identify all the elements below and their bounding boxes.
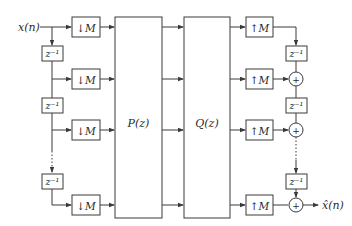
output-label: x̂(n) xyxy=(322,199,344,212)
delay-label: z⁻¹ xyxy=(45,48,60,59)
expander-label: ↑M xyxy=(250,125,270,137)
decimator-label: ↓M xyxy=(76,22,96,34)
delay-label: z⁻¹ xyxy=(289,100,304,111)
q-matrix-label: Q(z) xyxy=(195,117,218,130)
p-matrix-label: P(z) xyxy=(127,117,150,130)
expander-label: ↑M xyxy=(250,22,270,34)
delay-label: z⁻¹ xyxy=(45,100,60,111)
delay-label: z⁻¹ xyxy=(289,48,304,59)
decimator-label: ↓M xyxy=(76,125,96,137)
adder-plus-icon: + xyxy=(292,201,300,211)
delay-label: z⁻¹ xyxy=(289,176,304,187)
expander-label: ↑M xyxy=(250,200,270,212)
decimator-label: ↓M xyxy=(76,74,96,86)
adder-plus-icon: + xyxy=(292,126,300,136)
polyphase-filterbank-diagram: x(n) x̂(n) ↓M ↓M ↓M ↓M ↑M ↑M ↑M ↑M z⁻¹ z… xyxy=(0,0,352,226)
expander-label: ↑M xyxy=(250,74,270,86)
decimator-label: ↓M xyxy=(76,200,96,212)
adder-plus-icon: + xyxy=(292,75,300,85)
signal-line xyxy=(273,27,296,45)
delay-label: z⁻¹ xyxy=(45,176,60,187)
input-label: x(n) xyxy=(18,21,40,34)
